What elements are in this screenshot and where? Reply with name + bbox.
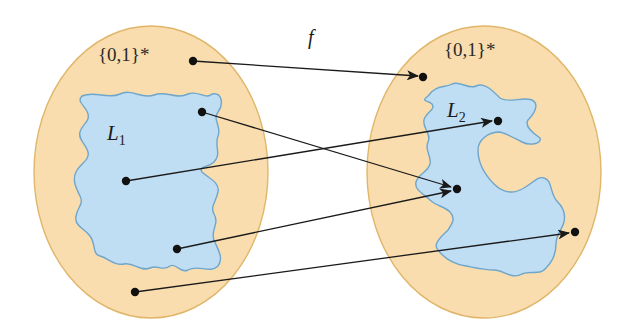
l1-subscript: 1: [119, 133, 126, 148]
point-l1-upper: [198, 108, 206, 116]
function-f-label: f: [308, 26, 316, 49]
point-l2-upper: [494, 117, 502, 125]
point-right-outside-top: [419, 73, 427, 81]
l2-letter: L: [446, 98, 459, 122]
l1-letter: L: [106, 121, 119, 145]
reduction-diagram: {0,1}* L1 {0,1}* L2 f: [0, 0, 625, 329]
point-l1-lower: [173, 245, 181, 253]
point-left-outside-top: [189, 57, 197, 65]
point-l2-middle: [453, 185, 461, 193]
right-universe-label: {0,1}*: [444, 39, 496, 60]
point-right-outside-right: [571, 228, 579, 236]
left-universe-label: {0,1}*: [98, 44, 150, 65]
l2-subscript: 2: [459, 110, 466, 125]
point-left-outside-bottom: [131, 288, 139, 296]
point-l1-center: [122, 177, 130, 185]
left-set: {0,1}* L1: [34, 26, 268, 318]
